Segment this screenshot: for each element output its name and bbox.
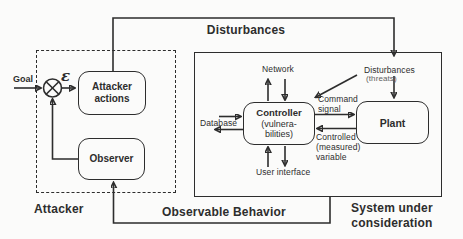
observable-behavior-label: Observable Behavior	[162, 206, 286, 219]
controller-line2: (vulnera-	[261, 119, 297, 129]
observer-label: Observer	[90, 153, 134, 166]
plant-label: Plant	[380, 117, 406, 129]
command-signal-line2: signal	[318, 105, 358, 115]
system-frame-label: System under consideration	[344, 201, 440, 231]
attacker-actions-line1: Attacker	[92, 81, 132, 94]
block-diagram: Attacker actions Observer Controller (vu…	[0, 0, 463, 239]
disturbances-top-label: Disturbances	[196, 24, 296, 37]
goal-label: Goal	[13, 74, 33, 84]
controlled-variable-label: Controlled (measured) variable	[316, 133, 360, 162]
controller-box: Controller (vulnera- bilities)	[243, 102, 315, 145]
attacker-actions-line2: actions	[94, 93, 129, 106]
observer-box: Observer	[78, 138, 145, 180]
database-label: Database	[200, 119, 237, 129]
controlled-variable-line3: variable	[316, 153, 360, 163]
controller-line3: bilities)	[265, 129, 293, 139]
system-frame-label-line1: System under	[344, 201, 440, 216]
epsilon-label: ε	[61, 68, 70, 85]
controller-line1: Controller	[256, 108, 301, 119]
command-signal-label: Command signal	[318, 95, 358, 114]
threats-label: (threats)	[366, 75, 397, 84]
user-interface-label: User interface	[256, 168, 310, 178]
attacker-actions-box: Attacker actions	[78, 71, 146, 115]
attacker-frame-label: Attacker	[34, 203, 84, 216]
system-frame-label-line2: consideration	[344, 216, 440, 231]
network-label: Network	[248, 65, 308, 75]
plant-box: Plant	[356, 101, 429, 144]
